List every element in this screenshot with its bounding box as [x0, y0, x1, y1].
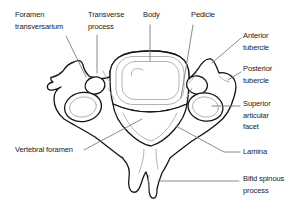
- label-posterior-tubercle: Posterior tubercle: [243, 63, 272, 86]
- label-vertebral-foramen: Vertebral foramen: [15, 144, 73, 156]
- label-line: Vertebral foramen: [15, 144, 73, 156]
- label-line: Posterior: [243, 63, 272, 75]
- label-line: tubercle: [243, 42, 269, 54]
- label-line: Pedicle: [191, 9, 215, 21]
- anatomy-figure: Foramen transversarium Transverse proces…: [0, 0, 303, 208]
- label-lamina: Lamina: [243, 146, 267, 158]
- label-line: Lamina: [243, 146, 267, 158]
- label-line: tubercle: [243, 75, 272, 87]
- label-line: Transverse: [88, 9, 124, 21]
- label-line: Anterior: [243, 30, 269, 42]
- label-transverse-process: Transverse process: [88, 9, 124, 32]
- label-foramen-transversarium: Foramen transversarium: [15, 9, 63, 32]
- label-line: transversarium: [15, 21, 63, 33]
- label-line: Bifid spinous: [243, 173, 284, 185]
- label-pedicle: Pedicle: [191, 9, 215, 21]
- label-line: Superior: [243, 98, 271, 110]
- label-line: Foramen: [15, 9, 63, 21]
- label-line: process: [243, 185, 284, 197]
- label-line: process: [88, 21, 124, 33]
- label-line: Body: [143, 9, 160, 21]
- leader-anterior-tubercle: [212, 38, 241, 63]
- label-anterior-tubercle: Anterior tubercle: [243, 30, 269, 53]
- label-line: articular: [243, 110, 271, 122]
- label-superior-articular-facet: Superior articular facet: [243, 98, 271, 133]
- label-line: facet: [243, 121, 271, 133]
- label-body: Body: [143, 9, 160, 21]
- label-bifid-spinous-process: Bifid spinous process: [243, 173, 284, 196]
